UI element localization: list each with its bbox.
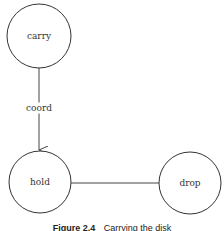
figure-caption: Figure 2.4 Carrying the disk — [0, 224, 224, 231]
state-diagram: carry hold drop coord Figure 2.4 Carryin… — [0, 0, 224, 231]
node-drop-label: drop — [179, 179, 200, 188]
node-hold-label: hold — [30, 178, 50, 187]
figure-caption-text: Carrying the disk — [104, 223, 172, 231]
node-carry-label: carry — [27, 32, 51, 41]
figure-number: Figure 2.4 — [53, 223, 96, 231]
edge-label-coord: coord — [26, 103, 52, 114]
